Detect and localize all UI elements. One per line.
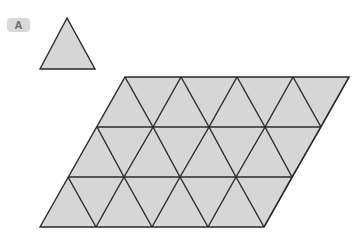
single-triangle [40, 18, 95, 69]
diagram-canvas [0, 0, 361, 236]
triangle-tiling-parallelogram [40, 77, 349, 227]
